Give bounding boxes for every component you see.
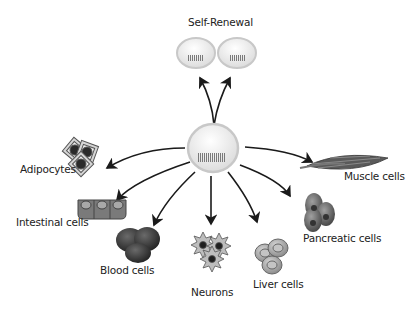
diagram-graphics xyxy=(0,0,410,311)
liver-cells xyxy=(255,239,288,274)
pancreatic-cells xyxy=(304,193,335,232)
muscle-cells xyxy=(300,155,388,169)
label-intestinal-cells: Intestinal cells xyxy=(16,216,89,228)
stem-cell-differentiation-diagram: Self-Renewal Adipocytes Intestinal cells… xyxy=(0,0,410,311)
label-pancreatic-cells: Pancreatic cells xyxy=(303,232,381,244)
self-renewal-cell-left xyxy=(177,38,215,68)
stem-cell xyxy=(188,124,238,172)
neurons xyxy=(191,232,231,272)
label-muscle-cells: Muscle cells xyxy=(344,170,405,182)
label-neurons: Neurons xyxy=(191,286,233,298)
label-blood-cells: Blood cells xyxy=(100,264,154,276)
label-adipocytes: Adipocytes xyxy=(20,163,76,175)
label-self-renewal: Self-Renewal xyxy=(188,16,253,28)
label-liver-cells: Liver cells xyxy=(253,278,303,290)
blood-cells xyxy=(116,227,160,263)
self-renewal-cell-right xyxy=(218,38,256,68)
